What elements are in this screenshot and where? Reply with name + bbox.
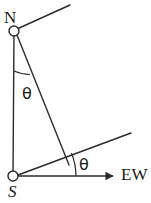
- south-ray-line: [18, 133, 131, 175]
- south-node-label: S: [8, 183, 17, 200]
- east-west-axis-label: EW: [121, 166, 147, 183]
- angle-arc-north-icon: [14, 71, 30, 75]
- node-circle-n: [9, 26, 19, 36]
- angle-arc-south-icon: [72, 153, 77, 176]
- angle-label-south: θ: [79, 157, 89, 173]
- north-ray-line: [17, 5, 70, 29]
- geometry-diagram: N S EW θ θ: [0, 0, 151, 203]
- north-node-label: N: [4, 9, 16, 26]
- meridian-line-ns: [13, 31, 14, 176]
- angle-label-north: θ: [22, 86, 32, 102]
- node-circle-s: [8, 171, 18, 181]
